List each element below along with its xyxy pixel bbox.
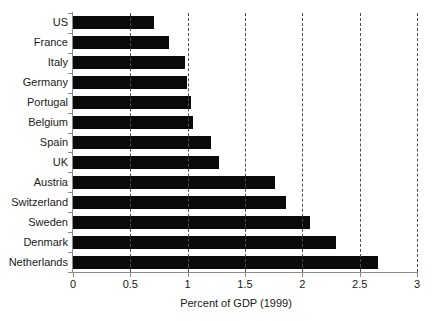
x-axis-tick — [130, 273, 131, 277]
x-gridline — [417, 13, 418, 272]
y-axis-category-label: Germany — [2, 76, 68, 89]
y-axis-category-label: Belgium — [2, 116, 68, 129]
x-axis-tick-label: 0.5 — [123, 278, 138, 291]
x-axis-tick-label: 2 — [299, 278, 305, 291]
y-axis-tick — [68, 13, 72, 14]
bar-chart: USFranceItalyGermanyPortugalBelgiumSpain… — [0, 0, 438, 321]
x-axis-tick-label: 1.5 — [237, 278, 252, 291]
y-axis-category-label: France — [2, 36, 68, 49]
x-axis-title: Percent of GDP (1999) — [0, 297, 438, 309]
x-gridline — [130, 13, 131, 272]
bar — [73, 236, 336, 249]
bar — [73, 16, 154, 29]
y-axis-category-label: Sweden — [2, 216, 68, 229]
y-axis-category-label: Denmark — [2, 236, 68, 249]
bar — [73, 116, 193, 129]
x-gridline — [188, 13, 189, 272]
x-axis-tick-label: 0 — [70, 278, 76, 291]
bar — [73, 216, 310, 229]
x-axis-tick-label: 2.5 — [352, 278, 367, 291]
y-axis-tick — [68, 192, 72, 193]
y-axis-tick — [68, 53, 72, 54]
y-axis-tick — [68, 93, 72, 94]
y-axis-tick — [68, 272, 72, 273]
x-axis-tick — [360, 273, 361, 277]
y-axis-tick — [68, 113, 72, 114]
y-axis-category-label: Italy — [2, 56, 68, 69]
y-axis-tick — [68, 133, 72, 134]
x-gridline — [360, 13, 361, 272]
y-axis-category-label: Netherlands — [2, 256, 68, 269]
x-axis-tick — [73, 273, 74, 277]
x-axis-title-text: Percent of GDP (1999) — [180, 297, 292, 309]
y-axis-tick — [68, 33, 72, 34]
y-axis-tick — [68, 73, 72, 74]
bar — [73, 156, 219, 169]
bar — [73, 196, 286, 209]
x-axis-tick — [245, 273, 246, 277]
y-axis-tick — [68, 232, 72, 233]
y-axis-category-label: UK — [2, 156, 68, 169]
bar — [73, 96, 191, 109]
y-axis-category-label: US — [2, 16, 68, 29]
y-axis-category-label: Austria — [2, 176, 68, 189]
x-axis-tick — [302, 273, 303, 277]
y-axis-category-label: Spain — [2, 136, 68, 149]
y-axis-tick — [68, 212, 72, 213]
x-gridline — [302, 13, 303, 272]
y-axis-category-labels: USFranceItalyGermanyPortugalBelgiumSpain… — [0, 0, 68, 321]
y-axis-tick — [68, 252, 72, 253]
x-axis-tick — [417, 273, 418, 277]
y-axis-tick — [68, 152, 72, 153]
x-axis-tick-label: 3 — [414, 278, 420, 291]
bar — [73, 36, 169, 49]
bar — [73, 56, 185, 69]
x-axis-tick — [188, 273, 189, 277]
y-axis-tick — [68, 172, 72, 173]
bar — [73, 136, 211, 149]
x-axis-tick-label: 1 — [185, 278, 191, 291]
x-gridline — [245, 13, 246, 272]
y-axis-category-label: Portugal — [2, 96, 68, 109]
y-axis-category-label: Switzerland — [2, 196, 68, 209]
bar — [73, 256, 378, 269]
